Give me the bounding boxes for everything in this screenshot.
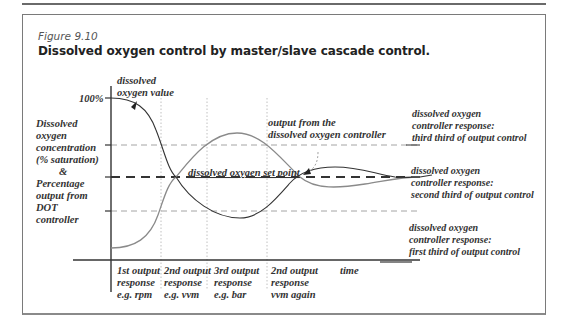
ylabel-line-7: output from [36, 190, 88, 201]
ylabel-line-8: DOT [35, 202, 58, 213]
annot-third-2: controller response: [412, 120, 495, 131]
annot-third-3: third third of output control [412, 132, 527, 143]
ylabel-line-2: oxygen [36, 130, 67, 141]
ylabel-line-1: Dissolved [35, 118, 78, 129]
do-value-label-1: dissolved [117, 75, 157, 86]
region-4-line-1: 2nd output [270, 265, 319, 276]
region-1-line-3: e.g. rpm [117, 289, 152, 300]
annot-first-3: first third of output control [409, 246, 520, 257]
region-2-line-1: 2nd output [163, 265, 212, 276]
x-axis-label: time [340, 265, 359, 276]
controller-output-curve [111, 133, 420, 248]
dissolved-oxygen-curve [111, 98, 420, 218]
annot-second-2: controller response: [411, 177, 494, 188]
y-tick-100-label: 100% [79, 93, 104, 104]
annot-second-1: dissolved oxygen [411, 165, 481, 176]
region-4-line-2: response [271, 277, 309, 288]
region-3-line-3: e.g. bar [214, 289, 247, 300]
region-4-line-3: vvm again [271, 289, 316, 300]
cascade-control-diagram: dissolved oxygen value 100% Dissolved ox… [0, 0, 566, 329]
annot-second-3: second third of output control [410, 189, 534, 200]
ylabel-line-4: (% saturation) [36, 154, 99, 166]
region-2-line-2: response [164, 277, 202, 288]
ylabel-line-3: concentration [36, 142, 96, 153]
controller-output-label-2: dissolved oxygen controller [268, 129, 387, 140]
ylabel-line-9: controller [36, 214, 79, 225]
do-value-label-2: oxygen value [117, 87, 174, 98]
setpoint-label: dissolved oxygen set point [188, 167, 301, 178]
annot-first-1: dissolved oxygen [409, 222, 479, 233]
region-3-line-1: 3rd output [213, 265, 260, 276]
ylabel-line-5: & [59, 166, 68, 177]
controller-output-label-1: output from the [268, 117, 336, 128]
controller-output-arrow-icon [303, 168, 311, 175]
annot-third-1: dissolved oxygen [412, 108, 482, 119]
region-1-line-1: 1st output [117, 265, 161, 276]
annot-first-2: controller response: [409, 234, 492, 245]
region-1-line-2: response [117, 277, 155, 288]
region-2-line-3: e.g. vvm [164, 289, 199, 300]
region-3-line-2: response [214, 277, 252, 288]
ylabel-line-6: Percentage [36, 178, 85, 189]
